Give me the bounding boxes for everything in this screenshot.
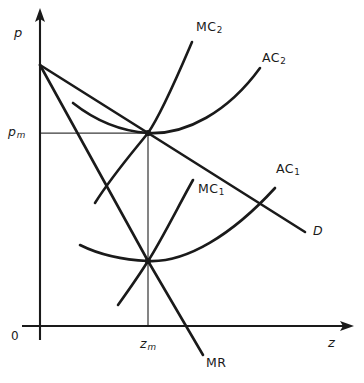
marginal-revenue-curve <box>40 65 203 355</box>
mc1-label-base: MC <box>198 181 218 196</box>
y-axis-label: p <box>14 26 23 39</box>
ac1-label-base: AC <box>276 161 294 176</box>
intersection-point-lower <box>145 258 151 264</box>
zm-tick-base: z <box>140 336 147 351</box>
ac2-label: AC2 <box>262 52 286 66</box>
zm-tick-label: zm <box>140 338 156 352</box>
ac1-label: AC1 <box>276 163 300 177</box>
demand-label: D <box>313 225 323 238</box>
ac1-label-subscript: 1 <box>294 167 300 177</box>
mc2-label-base: MC <box>196 19 216 34</box>
tangency-point-upper <box>145 130 151 136</box>
ac2-label-base: AC <box>262 50 280 65</box>
ac1-curve <box>80 188 275 261</box>
mc2-label-subscript: 2 <box>216 25 222 35</box>
mc1-label: MC1 <box>198 183 224 197</box>
economics-diagram: p z 0 pm zm MC2 AC2 AC1 MC1 D MR <box>0 0 364 383</box>
mc1-label-subscript: 1 <box>218 187 224 197</box>
x-axis-label: z <box>328 336 335 349</box>
marginal-revenue-label: MR <box>206 357 226 370</box>
mc2-label: MC2 <box>196 21 222 35</box>
pm-tick-subscript: m <box>16 130 25 140</box>
pm-tick-label: pm <box>8 126 25 140</box>
ac2-label-subscript: 2 <box>280 56 286 66</box>
mc1-curve <box>118 180 193 305</box>
origin-label: 0 <box>11 330 19 342</box>
diagram-canvas <box>0 0 364 383</box>
zm-tick-subscript: m <box>147 342 156 352</box>
mc2-curve <box>95 42 192 203</box>
demand-curve <box>40 65 305 232</box>
